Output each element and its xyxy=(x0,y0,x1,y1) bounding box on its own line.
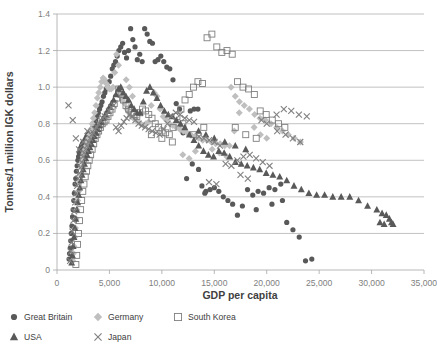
data-point xyxy=(242,146,249,153)
data-point xyxy=(195,106,200,111)
data-point xyxy=(247,152,253,158)
data-point xyxy=(142,26,147,31)
data-point xyxy=(150,41,155,46)
data-point xyxy=(190,161,195,166)
plot-svg: 00.20.40.60.81.01.21.4 05,00010,00015,00… xyxy=(0,0,437,352)
legend-label: Great Britain xyxy=(24,312,72,322)
data-point xyxy=(129,93,136,100)
data-point xyxy=(256,166,263,173)
data-point xyxy=(66,102,72,108)
data-point xyxy=(267,185,272,190)
x-tick-label: 10,000 xyxy=(149,278,176,288)
data-point xyxy=(303,258,308,263)
data-point xyxy=(276,173,283,180)
data-point xyxy=(196,167,201,172)
data-point xyxy=(228,84,235,91)
x-axis-label: GDP per capita xyxy=(202,289,277,301)
y-tick-label: 0 xyxy=(45,265,50,275)
data-point xyxy=(238,172,244,178)
y-tick-label: 0.8 xyxy=(38,119,50,129)
y-axis-ticks: 00.20.40.60.81.01.21.4 xyxy=(38,9,57,275)
data-point xyxy=(186,155,193,162)
data-point xyxy=(113,124,119,130)
data-point xyxy=(108,74,113,79)
data-point xyxy=(257,108,263,114)
x-axis-ticks: 05,00010,00015,00020,00025,00030,00035,0… xyxy=(55,270,437,288)
data-point xyxy=(126,84,133,91)
data-point xyxy=(99,99,104,104)
y-tick-label: 0.2 xyxy=(38,228,50,238)
data-point xyxy=(179,151,186,158)
data-point xyxy=(281,106,287,112)
data-point xyxy=(202,191,207,196)
data-point xyxy=(225,198,230,203)
y-tick-label: 0.4 xyxy=(38,192,50,202)
data-point xyxy=(240,154,246,160)
legend-label: USA xyxy=(24,332,42,342)
data-point xyxy=(161,59,166,64)
data-point xyxy=(288,108,294,114)
x-tick-label: 20,000 xyxy=(254,278,281,288)
data-point xyxy=(158,53,163,58)
data-point xyxy=(267,163,273,169)
data-point xyxy=(309,256,314,261)
data-point xyxy=(120,41,125,46)
data-point xyxy=(201,124,207,130)
data-point xyxy=(192,148,199,155)
data-point xyxy=(206,179,212,185)
y-tick-label: 1.4 xyxy=(38,9,50,19)
x-tick-label: 30,000 xyxy=(358,278,385,288)
data-point xyxy=(274,112,280,118)
data-point xyxy=(132,44,137,49)
legend-marker-x-icon xyxy=(94,333,101,340)
legend-label: Germany xyxy=(108,312,144,322)
x-tick-label: 0 xyxy=(55,278,60,288)
data-point xyxy=(232,142,239,149)
data-point xyxy=(257,131,264,138)
x-tick-label: 5,000 xyxy=(99,278,121,288)
data-point xyxy=(215,147,222,154)
legend-label: South Korea xyxy=(188,312,236,322)
series-south-korea xyxy=(73,31,288,267)
data-point xyxy=(137,52,142,57)
data-point xyxy=(126,48,131,53)
data-point xyxy=(243,132,249,138)
data-point xyxy=(170,77,175,82)
data-point xyxy=(291,182,298,189)
data-point xyxy=(216,189,221,194)
data-point xyxy=(263,112,269,118)
data-point xyxy=(221,194,226,199)
x-tick-label: 25,000 xyxy=(306,278,333,288)
legend-item-south-korea[interactable]: South Korea xyxy=(174,312,236,322)
legend-marker-diamond-icon xyxy=(94,313,102,321)
data-point xyxy=(230,202,235,207)
data-point xyxy=(228,163,234,169)
data-point xyxy=(290,227,295,232)
legend-item-great-britain[interactable]: Great Britain xyxy=(11,312,73,322)
y-tick-label: 1.0 xyxy=(38,82,50,92)
legend-marker-square-icon xyxy=(174,313,181,320)
legend-item-japan[interactable]: Japan xyxy=(94,332,131,342)
data-point xyxy=(157,102,164,109)
data-point xyxy=(263,135,270,142)
data-point xyxy=(278,181,283,186)
data-point xyxy=(373,206,380,213)
data-point xyxy=(184,176,189,181)
data-point xyxy=(338,193,345,200)
data-point xyxy=(256,189,261,194)
data-point xyxy=(167,66,172,71)
data-point xyxy=(263,169,270,176)
x-tick-label: 15,000 xyxy=(201,278,228,288)
data-point xyxy=(283,177,290,184)
data-point xyxy=(269,202,274,207)
legend: Great BritainGermanySouth KoreaUSAJapan xyxy=(10,312,236,342)
data-point xyxy=(174,101,179,106)
y-tick-label: 0.6 xyxy=(38,155,50,165)
data-point xyxy=(280,198,285,203)
data-point xyxy=(128,26,133,31)
data-points-group xyxy=(66,26,397,267)
legend-item-usa[interactable]: USA xyxy=(10,332,42,342)
data-point xyxy=(251,91,257,97)
legend-item-germany[interactable]: Germany xyxy=(94,312,144,322)
data-point xyxy=(124,115,130,121)
